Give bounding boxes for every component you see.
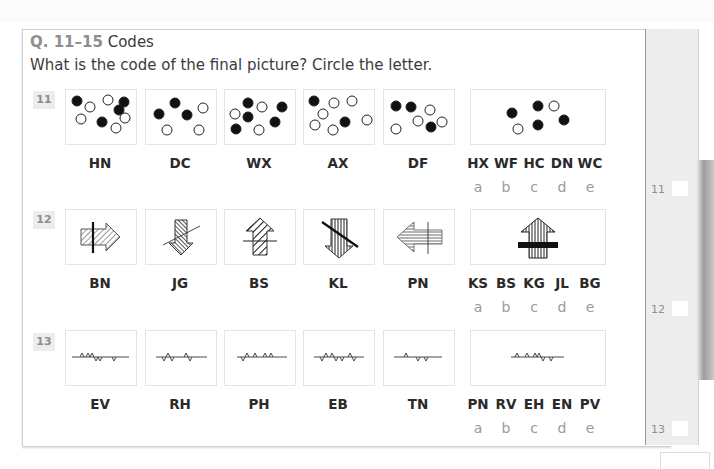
arrow-right-icon <box>66 210 136 264</box>
zigzag-line-icon <box>384 331 454 385</box>
letter-d[interactable]: d <box>548 179 576 195</box>
answer-options-13: PN RV EH EN PV <box>464 396 604 412</box>
arrow-up-icon <box>225 210 295 264</box>
answer-box-11[interactable] <box>672 181 688 196</box>
next-answer-box <box>660 452 710 469</box>
answer-box-12[interactable] <box>672 301 688 316</box>
option-b[interactable]: BS <box>492 275 520 291</box>
letter-a[interactable]: a <box>464 420 492 436</box>
option-letters-11: a b c d e <box>464 179 604 195</box>
figure-13-4 <box>303 330 375 386</box>
code-label: HN <box>64 155 136 171</box>
instruction: What is the code of the final picture? C… <box>30 56 432 74</box>
margin-label-13: 13 <box>651 423 665 436</box>
dots-figure-icon <box>471 90 605 144</box>
figure-13-2 <box>145 330 217 386</box>
final-figure-12 <box>470 209 606 265</box>
letter-b[interactable]: b <box>492 299 520 315</box>
code-label: BN <box>64 275 136 291</box>
section-name: Codes <box>108 33 154 51</box>
figure-12-1 <box>65 209 137 265</box>
figure-12-4 <box>303 209 375 265</box>
option-letters-13: a b c d e <box>464 420 604 436</box>
margin-label-12: 12 <box>651 303 665 316</box>
option-a[interactable]: KS <box>464 275 492 291</box>
option-b[interactable]: RV <box>492 396 520 412</box>
option-a[interactable]: HX <box>464 155 492 171</box>
option-e[interactable]: BG <box>576 275 604 291</box>
question-number-13: 13 <box>33 333 55 351</box>
figure-11-3 <box>224 89 296 145</box>
letter-c[interactable]: c <box>520 299 548 315</box>
arrow-down-icon <box>304 210 374 264</box>
code-label: DC <box>144 155 216 171</box>
code-label: JG <box>144 275 216 291</box>
figure-13-5 <box>383 330 455 386</box>
letter-e[interactable]: e <box>576 179 604 195</box>
zigzag-line-icon <box>146 331 216 385</box>
final-figure-11 <box>470 89 606 145</box>
letter-a[interactable]: a <box>464 299 492 315</box>
figure-13-1 <box>65 330 137 386</box>
code-label: TN <box>382 396 454 412</box>
code-label: RH <box>144 396 216 412</box>
figure-12-5 <box>383 209 455 265</box>
letter-e[interactable]: e <box>576 420 604 436</box>
arrow-left-icon <box>384 210 454 264</box>
letter-e[interactable]: e <box>576 299 604 315</box>
option-b[interactable]: WF <box>492 155 520 171</box>
letter-d[interactable]: d <box>548 299 576 315</box>
section-title: Q. 11–15 Codes <box>30 33 154 51</box>
answer-margin <box>645 29 699 445</box>
letter-b[interactable]: b <box>492 420 520 436</box>
code-label: EB <box>302 396 374 412</box>
code-label: BS <box>223 275 295 291</box>
figure-11-2 <box>145 89 217 145</box>
figure-12-3 <box>224 209 296 265</box>
option-c[interactable]: KG <box>520 275 548 291</box>
code-label: PN <box>382 275 454 291</box>
margin-label-11: 11 <box>651 183 665 196</box>
zigzag-line-icon <box>66 331 136 385</box>
code-label: KL <box>302 275 374 291</box>
dots-figure-icon <box>384 90 454 144</box>
figure-13-3 <box>224 330 296 386</box>
code-label: EV <box>64 396 136 412</box>
arrow-up-icon <box>471 210 605 264</box>
option-c[interactable]: HC <box>520 155 548 171</box>
page-edge-shadow <box>697 160 714 380</box>
figure-11-4 <box>303 89 375 145</box>
zigzag-line-icon <box>304 331 374 385</box>
code-label: AX <box>302 155 374 171</box>
zigzag-line-icon <box>471 331 605 385</box>
option-d[interactable]: JL <box>548 275 576 291</box>
answer-box-13[interactable] <box>672 421 688 436</box>
letter-b[interactable]: b <box>492 179 520 195</box>
zigzag-line-icon <box>225 331 295 385</box>
final-figure-13 <box>470 330 606 386</box>
letter-c[interactable]: c <box>520 179 548 195</box>
dots-figure-icon <box>146 90 216 144</box>
dots-figure-icon <box>304 90 374 144</box>
option-c[interactable]: EH <box>520 396 548 412</box>
option-e[interactable]: WC <box>576 155 604 171</box>
question-range: Q. 11–15 <box>30 33 103 51</box>
option-d[interactable]: EN <box>548 396 576 412</box>
option-d[interactable]: DN <box>548 155 576 171</box>
code-label: PH <box>223 396 295 412</box>
option-e[interactable]: PV <box>576 396 604 412</box>
letter-d[interactable]: d <box>548 420 576 436</box>
option-a[interactable]: PN <box>464 396 492 412</box>
figure-11-5 <box>383 89 455 145</box>
figure-11-1 <box>65 89 137 145</box>
letter-a[interactable]: a <box>464 179 492 195</box>
dots-figure-icon <box>225 90 295 144</box>
arrow-down-icon <box>146 210 216 264</box>
letter-c[interactable]: c <box>520 420 548 436</box>
option-letters-12: a b c d e <box>464 299 604 315</box>
code-label: WX <box>223 155 295 171</box>
question-number-11: 11 <box>33 91 55 109</box>
dots-figure-icon <box>66 90 136 144</box>
answer-options-11: HX WF HC DN WC <box>464 155 604 171</box>
figure-12-2 <box>145 209 217 265</box>
